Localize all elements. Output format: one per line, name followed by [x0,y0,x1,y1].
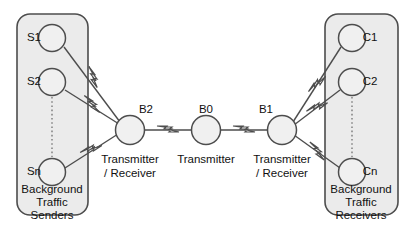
group-label-senders-line2: Traffic [36,196,68,208]
node-circle-b1[interactable] [268,116,297,145]
group-label-receivers-line3: Receivers [335,209,386,221]
node-label-b1: B1 [259,103,273,115]
node-caption-b0-line1: Transmitter [177,153,235,165]
group-label-receivers-line2: Traffic [345,196,377,208]
node-circle-cn[interactable] [339,159,366,186]
node-label-sn: Sn [27,165,41,177]
node-circle-s2[interactable] [39,69,66,96]
node-circle-c1[interactable] [339,25,366,52]
node-circle-c2[interactable] [339,69,366,96]
node-circle-b2[interactable] [116,116,145,145]
node-label-cn: Cn [363,165,378,177]
group-label-senders-line1: Background [21,183,82,195]
node-label-s2: S2 [27,75,41,87]
node-label-b2: B2 [139,103,153,115]
node-caption-b1-line1: Transmitter [253,153,311,165]
node-caption-b2-line2: / Receiver [104,167,156,179]
group-label-receivers-line1: Background [330,183,391,195]
wireless-bolt-b0-b1 [233,126,255,132]
node-circle-b0[interactable] [192,116,221,145]
wireless-bolt-b2-b0 [157,126,179,132]
node-label-b0: B0 [199,103,213,115]
node-label-c1: C1 [363,31,378,43]
node-caption-b2-line1: Transmitter [101,153,159,165]
diagram-canvas: S1 S2 Sn C1 C2 Cn Background Traffic Sen… [0,0,412,228]
node-label-c2: C2 [363,75,378,87]
network-topology-diagram: S1 S2 Sn C1 C2 Cn Background Traffic Sen… [0,0,412,228]
node-circle-sn[interactable] [39,159,66,186]
node-circle-s1[interactable] [39,25,66,52]
group-label-senders-line3: Senders [31,209,74,221]
node-caption-b1-line2: / Receiver [256,167,308,179]
node-label-s1: S1 [27,31,41,43]
